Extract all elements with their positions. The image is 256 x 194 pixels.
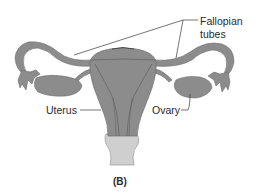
figure-caption: (B): [113, 176, 127, 187]
right-ovary: [174, 76, 212, 98]
label-fallopian-tubes-line2: tubes: [200, 28, 226, 40]
label-ovary: Ovary: [152, 104, 180, 116]
right-fallopian-tube: [154, 43, 234, 76]
vagina-shape: [105, 134, 139, 165]
left-fallopian-tube: [15, 42, 92, 74]
uterus-body: [90, 48, 156, 136]
fallopian-leader-right: [176, 20, 183, 58]
label-fallopian-tubes-line1: Fallopian: [200, 15, 243, 27]
left-ovary: [34, 75, 82, 96]
uterus-anatomy-diagram: Fallopian tubes Uterus Ovary (B): [0, 0, 256, 194]
label-uterus: Uterus: [46, 104, 77, 116]
